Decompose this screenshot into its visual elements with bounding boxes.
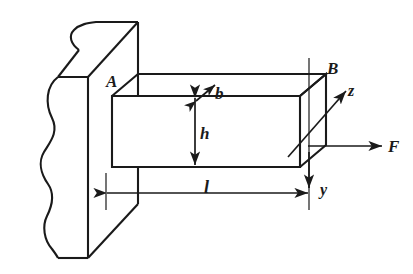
dimension-b-arrow — [196, 85, 215, 101]
wall-top-face — [88, 22, 138, 77]
label-axis-z: z — [348, 83, 354, 99]
label-force-f: F — [388, 138, 399, 155]
beam-end-face — [300, 74, 326, 167]
wall-front-right-edge — [58, 77, 88, 258]
wall-broken-edge-front — [41, 77, 58, 258]
wall-bottom-face — [88, 204, 138, 258]
label-dimension-width-b: b — [215, 85, 224, 102]
label-dimension-height-h: h — [200, 125, 209, 142]
axis-z-arrow — [288, 91, 346, 157]
label-axis-y: y — [320, 182, 327, 198]
wall-broken-edge-top — [71, 22, 138, 50]
label-dimension-length-l: l — [204, 178, 209, 196]
label-point-a: A — [106, 73, 117, 90]
label-point-b: B — [327, 60, 338, 77]
engineering-diagram-cantilever-beam: A B b h l z y F — [0, 0, 413, 274]
wall-front-top-left-join — [58, 50, 79, 77]
